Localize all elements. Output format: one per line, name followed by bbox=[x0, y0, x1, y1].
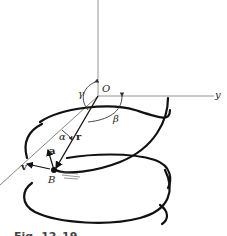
b-label: B bbox=[47, 174, 55, 185]
origin-label: O bbox=[102, 83, 110, 94]
beta-label: β bbox=[112, 113, 119, 124]
r-label: r bbox=[76, 131, 82, 142]
helix-curve bbox=[24, 98, 170, 224]
point-b bbox=[51, 167, 57, 173]
a-label: a bbox=[49, 145, 56, 156]
y-axis-label: y bbox=[214, 89, 221, 100]
figure-caption: Fig. 12–19 bbox=[14, 230, 77, 236]
v-label: v bbox=[20, 161, 28, 172]
gamma-label: γ bbox=[78, 88, 84, 99]
gamma-arc bbox=[83, 82, 95, 110]
velocity-vector-v bbox=[27, 164, 50, 169]
alpha-label: α bbox=[59, 131, 66, 142]
helix-diagram: γ O y β α r a v B Fig. 12–19 bbox=[0, 0, 227, 236]
